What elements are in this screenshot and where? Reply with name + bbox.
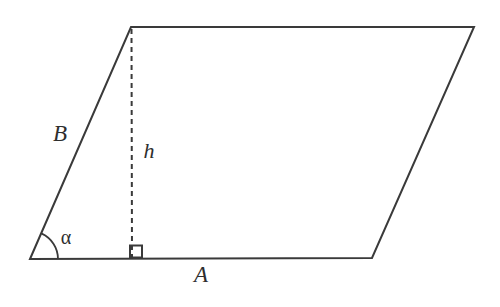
parallelogram-diagram: B h A α <box>0 0 500 307</box>
label-side-b: B <box>53 121 67 146</box>
label-height-h: h <box>144 138 155 163</box>
diagram-canvas: B h A α <box>0 0 500 307</box>
label-angle-alpha: α <box>61 226 72 248</box>
label-base-a: A <box>192 262 209 287</box>
